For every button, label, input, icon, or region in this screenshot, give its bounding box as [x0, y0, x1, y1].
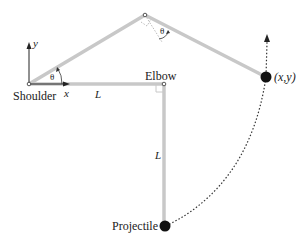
shoulder-theta-arc — [58, 69, 62, 84]
upper-length-label: L — [95, 89, 101, 100]
trajectory-arrow-icon — [264, 34, 270, 42]
shoulder-theta-label: θ — [50, 73, 54, 82]
elbow-theta-arrow-icon — [166, 30, 170, 34]
raised-forearm — [145, 15, 266, 77]
elbow-label: Elbow — [145, 70, 176, 82]
elbow-theta-label: θ — [160, 27, 164, 36]
y-axis-arrow-icon — [27, 42, 32, 49]
shoulder-pivot — [27, 82, 31, 86]
projectile-label: Projectile — [112, 220, 158, 232]
projectile-mass — [160, 221, 171, 232]
axis-y-label: y — [33, 38, 38, 49]
raised-elbow-pivot — [143, 13, 147, 17]
raised-upper-arm — [29, 15, 145, 84]
shoulder-label: Shoulder — [13, 90, 56, 102]
lower-length-label: L — [155, 150, 161, 161]
endpoint-mass — [261, 72, 272, 83]
raised-right-angle-marker — [141, 19, 151, 26]
endpoint-label: (x,y) — [274, 71, 296, 83]
axis-x-label: x — [64, 88, 69, 99]
arm-diagram — [0, 0, 300, 248]
